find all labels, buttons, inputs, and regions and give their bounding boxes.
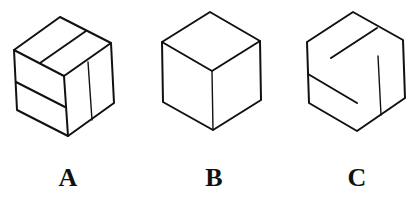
cube-b-front-edge — [212, 71, 213, 130]
cube-a-top-groove — [40, 31, 86, 63]
cube-b-top-face-edges — [162, 41, 260, 71]
cube-b-figure — [162, 12, 261, 130]
cube-a-left-groove — [16, 82, 65, 107]
cube-c-upper-line — [331, 28, 377, 58]
cube-a-right-groove — [88, 62, 92, 120]
cube-c-figure — [307, 12, 405, 131]
cube-a-figure — [14, 17, 114, 136]
cube-c-outline — [307, 12, 405, 131]
cube-c-left-line — [308, 74, 357, 103]
option-label-b: B — [194, 163, 234, 193]
cube-c-vertical-line — [378, 56, 381, 115]
option-label-c: C — [337, 163, 377, 193]
option-label-a: A — [48, 163, 88, 193]
